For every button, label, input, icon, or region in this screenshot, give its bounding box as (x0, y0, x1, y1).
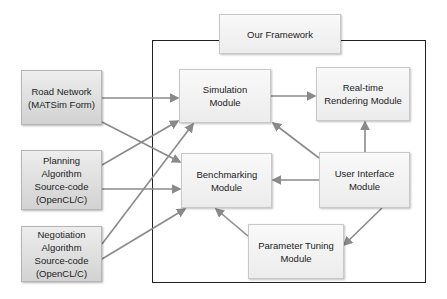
input-road-network: Road Network (MATSim Form) (21, 70, 102, 125)
module-parameter-tuning-label: Parameter Tuning Module (256, 239, 336, 265)
module-simulation-label: Simulation Module (200, 83, 250, 109)
module-user-interface: User Interface Module (319, 152, 410, 208)
module-user-interface-label: User Interface Module (335, 167, 395, 193)
input-planning-algorithm: Planning Algorithm Source-code (OpenCL/C… (21, 150, 102, 210)
module-rendering: Real-time Rendering Module (316, 67, 410, 121)
module-rendering-label: Real-time Rendering Module (321, 81, 405, 107)
module-benchmarking-label: Benchmarking Module (197, 168, 257, 194)
framework-title: Our Framework (219, 14, 341, 54)
input-road-network-label: Road Network (MATSim Form) (24, 85, 99, 111)
input-planning-algorithm-label: Planning Algorithm Source-code (OpenCL/C… (24, 154, 99, 206)
module-simulation: Simulation Module (179, 69, 271, 123)
module-parameter-tuning: Parameter Tuning Module (248, 224, 344, 279)
module-benchmarking: Benchmarking Module (181, 153, 272, 208)
input-negotiation-algorithm-label: Negotiation Algorithm Source-code (OpenC… (24, 228, 99, 280)
framework-title-text: Our Framework (247, 28, 313, 41)
input-negotiation-algorithm: Negotiation Algorithm Source-code (OpenC… (21, 226, 102, 282)
